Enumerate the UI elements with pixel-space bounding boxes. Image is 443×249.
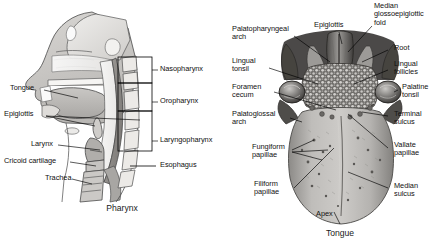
label-nasopharynx: Nasopharynx [160, 65, 203, 73]
label-cricoid-cartilage: Cricoid cartilage [4, 157, 56, 165]
label-lingual-tonsil: Lingual tonsil [232, 57, 256, 74]
label-oropharynx: Oropharynx [160, 97, 198, 105]
palatine-tonsil-right [375, 81, 401, 103]
label-esophagus: Esophagus [160, 161, 197, 169]
label-vallate-papillae: Vallate papillae [394, 141, 419, 158]
label-foramen-cecum: Foramen cecum [232, 83, 261, 100]
label-trachea: Trachea [45, 174, 72, 182]
label-terminal-sulcus: Terminal sulcus [394, 110, 422, 127]
label-epiglottis-tongue: Epiglottis [314, 21, 344, 29]
label-palatopharyngeal-arch: Palatopharyngeal arch [232, 25, 289, 42]
label-root: Root [394, 44, 409, 52]
label-apex: Apex [316, 210, 333, 218]
palatoglossal-arch-left [278, 100, 298, 124]
label-filiform-papillae: Filiform papillae [254, 180, 279, 197]
lingual-tonsil-follicles [302, 64, 379, 113]
label-median-sulcus: Median sulcus [394, 182, 418, 199]
label-larynx: Larynx [31, 140, 53, 148]
pharynx-caption: Pharynx [62, 203, 182, 213]
tongue-caption: Tongue [290, 228, 390, 238]
label-palatine-tonsil: Palatine tonsil [402, 83, 428, 100]
label-fungiform-papillae: Fungiform papillae [252, 143, 285, 160]
tongue-figure: Palatopharyngeal arch Lingual tonsil For… [222, 0, 443, 249]
label-tongue: Tongue [10, 84, 34, 92]
pharynx-figure: Tongue Epiglottis Larynx Cricoid cartila… [0, 0, 222, 249]
label-lingual-follicles: Lingual follicles [394, 60, 418, 77]
label-laryngopharynx: Laryngopharynx [160, 136, 212, 144]
label-median-glossoepiglottic-fold: Median glossoepiglottic fold [374, 2, 424, 27]
label-epiglottis: Epiglottis [4, 110, 34, 118]
label-palatoglossal-arch: Palatoglossal arch [232, 110, 275, 127]
